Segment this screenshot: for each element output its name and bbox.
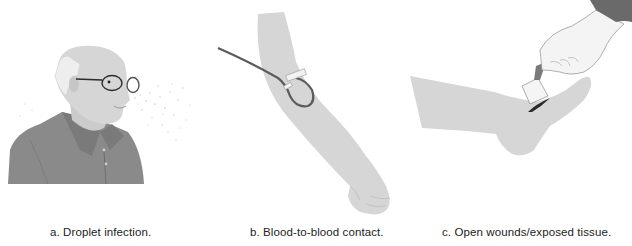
caption-c: c. Open wounds/exposed tissue. [442, 226, 611, 238]
foot-wound-illustration [400, 0, 632, 180]
elderly-man-illustration [0, 0, 210, 200]
caption-b: b. Blood-to-blood contact. [250, 226, 384, 238]
panel-blood-to-blood-contact: b. Blood-to-blood contact. [200, 0, 400, 246]
arm-with-iv-illustration [200, 0, 400, 225]
caption-a: a. Droplet infection. [50, 226, 151, 238]
panel-droplet-infection: a. Droplet infection. [0, 0, 210, 246]
panel-open-wounds: c. Open wounds/exposed tissue. [400, 0, 632, 246]
